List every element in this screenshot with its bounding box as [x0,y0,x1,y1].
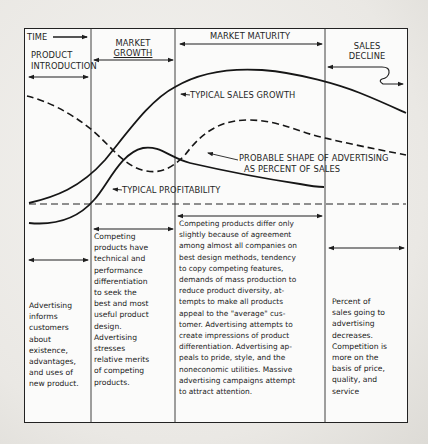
sales-curve-label: TYPICAL SALES GROWTH [190,90,295,100]
phase-growth-label-2: GROWTH [92,48,174,58]
phase-growth-label-1: MARKET [92,38,174,48]
introduction-description: Advertising informs customers about exis… [29,300,89,390]
advertising-curve-label-2: AS PERCENT OF SALES [244,164,340,174]
decline-description: Percent of sales going to advertising de… [332,296,406,397]
phase-decline-label-2: DECLINE [326,51,408,61]
maturity-description: Competing products differ only slightly … [179,218,324,397]
sales-label-pointer-icon [181,94,190,95]
decline-span-arrow-icon [328,67,403,84]
phase-introduction-label-2: INTRODUCTION [31,61,97,71]
advertising-curve-label-1: PROBABLE SHAPE OF ADVERTISING [239,153,389,163]
time-label: TIME [27,32,47,42]
phase-decline-label-1: SALES [326,41,408,51]
profitability-label-pointer-icon [113,189,122,190]
growth-description: Competing products have technical and pe… [94,231,174,388]
advertising-label-pointer-icon [208,153,238,160]
phase-maturity-label: MARKET MATURITY [176,31,324,41]
phase-introduction-label-1: PRODUCT [31,50,72,60]
profitability-curve-label: TYPICAL PROFITABILITY [122,185,220,195]
